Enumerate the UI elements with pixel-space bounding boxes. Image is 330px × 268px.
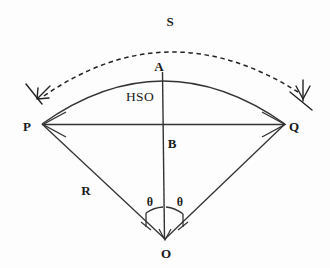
dashed-arc-path — [44, 52, 298, 96]
chord-group — [43, 112, 285, 137]
label-point-q: Q — [289, 120, 299, 133]
vertical-axis-line — [163, 72, 165, 239]
label-theta-left: θ — [147, 196, 153, 208]
diagram-canvas — [0, 0, 330, 268]
label-arc-length-s: S — [166, 15, 173, 28]
geometry-diagram: S A HSO P Q B R θ θ O — [0, 0, 330, 268]
label-radius-r: R — [81, 184, 90, 197]
label-point-b: B — [168, 137, 177, 150]
label-theta-right: θ — [177, 196, 183, 208]
dashed-arc-left-tail-icon — [26, 84, 42, 104]
label-hso: HSO — [126, 90, 154, 104]
label-point-o: O — [161, 247, 171, 260]
label-point-a: A — [154, 60, 163, 73]
dashed-arc-left-arrowhead-icon — [37, 86, 50, 99]
label-point-p: P — [23, 120, 31, 133]
